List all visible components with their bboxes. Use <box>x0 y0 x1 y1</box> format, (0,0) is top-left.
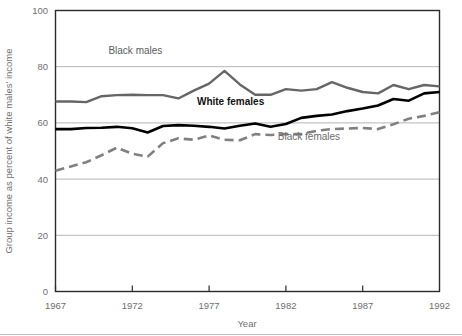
y-tick-label-0: 0 <box>43 286 48 297</box>
x-tick-label-1967: 1967 <box>45 300 66 311</box>
x-tick-label-1972: 1972 <box>122 300 143 311</box>
x-tick-label-1982: 1982 <box>275 300 296 311</box>
y-tick-label-40: 40 <box>37 174 48 185</box>
x-tick-label-1987: 1987 <box>352 300 373 311</box>
y-axis-tick-labels: 020406080100 <box>32 5 48 297</box>
series-label-black-females: Black females <box>278 131 340 142</box>
income-ratio-line-chart: 020406080100 196719721977198219871992 Bl… <box>0 0 462 336</box>
series-line-black-females <box>56 112 440 170</box>
x-axis-title: Year <box>237 318 256 329</box>
series-label-black-males: Black males <box>108 45 162 56</box>
chart-canvas: 020406080100 196719721977198219871992 Bl… <box>0 0 462 336</box>
x-axis-ticks <box>56 286 363 292</box>
y-tick-label-80: 80 <box>37 61 48 72</box>
y-axis-title: Group income as percent of white males' … <box>3 48 14 253</box>
y-tick-label-60: 60 <box>37 117 48 128</box>
series-label-white-females: White females <box>197 96 265 107</box>
x-axis-tick-labels: 196719721977198219871992 <box>45 300 450 311</box>
y-tick-label-100: 100 <box>32 5 48 16</box>
data-series-group <box>56 71 440 171</box>
y-tick-label-20: 20 <box>37 230 48 241</box>
x-tick-label-1992: 1992 <box>429 300 450 311</box>
x-tick-label-1977: 1977 <box>199 300 220 311</box>
